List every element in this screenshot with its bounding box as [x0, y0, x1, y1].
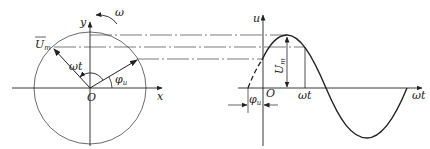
wave-origin-label: O: [266, 87, 275, 100]
phasor-sine-diagram: x y O ω Um ωt φu u ωt O Um ωt: [0, 0, 430, 149]
amplitude-label: Um: [273, 58, 287, 74]
phase-label: φu: [249, 93, 262, 107]
y-axis-label: y: [79, 16, 87, 29]
origin-label: O: [87, 91, 96, 104]
vector-label: Um: [35, 38, 51, 52]
sine-dashed-start: [248, 60, 262, 88]
waveform-diagram: u ωt O Um ωt φu: [228, 12, 426, 146]
phi-angle-label: φu: [115, 73, 128, 87]
rotation-label: ω: [115, 6, 124, 19]
rotation-arrow-icon: [96, 15, 117, 24]
u-axis-label: u: [253, 12, 260, 25]
wt-axis-label: ωt: [412, 89, 426, 102]
wt-angle-arc: [80, 73, 103, 80]
phi-angle-arc: [109, 77, 112, 88]
wt-angle-label: ωt: [69, 60, 83, 73]
projection-lines: [54, 35, 305, 59]
wt-marker-label: ωt: [298, 89, 312, 102]
x-axis-label: x: [157, 90, 164, 103]
sine-curve: [262, 35, 407, 138]
phasor-diagram: x y O ω Um ωt φu: [12, 6, 164, 146]
